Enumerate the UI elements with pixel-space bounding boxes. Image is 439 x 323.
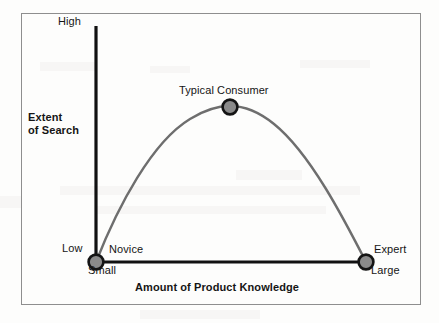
x-axis-low-label: Small bbox=[88, 264, 116, 277]
data-point-typical-consumer bbox=[223, 100, 238, 115]
y-axis-low-label: Low bbox=[62, 242, 82, 255]
y-axis-title-line-2: of Search bbox=[28, 124, 79, 137]
x-axis-high-label: Large bbox=[371, 264, 400, 277]
data-point-label-expert: Expert bbox=[374, 243, 406, 256]
y-axis-title: Extent of Search bbox=[28, 111, 79, 137]
figure-root: High Low Extent of Search Novice Small T… bbox=[0, 0, 439, 323]
y-axis-high-label: High bbox=[58, 15, 81, 28]
x-axis-title: Amount of Product Knowledge bbox=[135, 281, 299, 294]
data-point-label-novice: Novice bbox=[109, 243, 143, 256]
y-axis-title-line-1: Extent bbox=[28, 111, 79, 124]
search-extent-curve bbox=[96, 106, 366, 262]
data-point-label-typical-consumer: Typical Consumer bbox=[179, 84, 269, 97]
